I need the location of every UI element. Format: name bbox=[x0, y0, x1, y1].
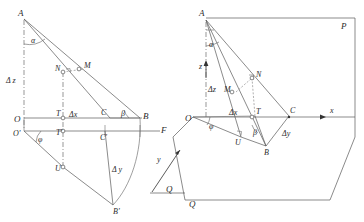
right-plane-Q-edge-4 bbox=[330, 137, 355, 200]
right-label-N: N bbox=[255, 70, 262, 79]
right-label-P: P bbox=[340, 21, 347, 31]
left-label-Bp: B' bbox=[113, 207, 120, 216]
right-label-beta: β bbox=[252, 128, 257, 137]
left-label-Cp: C' bbox=[100, 133, 107, 142]
left-label-B: B bbox=[143, 111, 149, 121]
right-label-x-axis: x bbox=[329, 106, 334, 115]
right-label-delta-z: Δz bbox=[207, 85, 217, 94]
right-label-B: B bbox=[264, 148, 269, 157]
left-node-T bbox=[61, 116, 65, 120]
right-label-M: M bbox=[223, 85, 232, 94]
diagram-canvas: A N M O T C B O' T' C' F U B' α β φ Δ z … bbox=[0, 0, 364, 222]
right-label-phi: φ bbox=[209, 122, 214, 131]
right-node-T bbox=[250, 115, 254, 119]
right-label-A: A bbox=[198, 8, 205, 18]
left-label-delta-z: Δ z bbox=[5, 76, 17, 85]
right-line-O-U bbox=[193, 117, 241, 137]
right-node-N bbox=[250, 76, 254, 80]
right-z-axis-arrowhead bbox=[204, 60, 209, 66]
left-line-A-C bbox=[24, 19, 110, 118]
right-line-A-U bbox=[206, 20, 241, 137]
right-label-C: C bbox=[290, 106, 296, 115]
right-label-Q: Q bbox=[189, 199, 196, 209]
left-label-N: N bbox=[54, 64, 61, 73]
left-label-phi: φ bbox=[38, 135, 43, 144]
geometry-figure: A N M O T C B O' T' C' F U B' α β φ Δ z … bbox=[0, 0, 364, 222]
left-node-N bbox=[61, 70, 65, 74]
left-label-beta: β bbox=[120, 109, 125, 118]
left-node-U bbox=[61, 165, 65, 169]
right-plane-Q-edge-2 bbox=[173, 137, 185, 200]
left-node-M bbox=[77, 67, 81, 71]
left-label-C: C bbox=[101, 108, 107, 117]
left-label-O: O bbox=[14, 114, 21, 124]
right-label-delta-y: Δy bbox=[281, 129, 291, 138]
left-line-A-B bbox=[24, 19, 140, 118]
right-line-A-C bbox=[206, 20, 289, 116]
left-label-Tp: T' bbox=[56, 128, 62, 137]
right-label-T: T bbox=[256, 107, 261, 116]
left-label-delta-x: Δx bbox=[68, 110, 78, 119]
right-x-axis-arrowhead bbox=[320, 115, 326, 120]
left-label-F: F bbox=[160, 125, 167, 135]
left-label-Q-plane: Q bbox=[166, 184, 173, 194]
right-label-O: O bbox=[185, 113, 192, 123]
right-label-z-axis: z bbox=[198, 62, 203, 71]
right-label-delta-x: Δx bbox=[228, 108, 238, 117]
left-panel-group: A N M O T C B O' T' C' F U B' α β φ Δ z … bbox=[5, 8, 185, 216]
right-panel-group: A P N M O T C U B Q α β φ Δz Δx Δy x z bbox=[173, 8, 355, 209]
left-label-T: T bbox=[56, 109, 61, 118]
right-line-A-B bbox=[206, 20, 266, 146]
left-label-M: M bbox=[83, 61, 92, 70]
left-label-A: A bbox=[17, 8, 24, 18]
left-label-y-axis: y bbox=[156, 155, 161, 164]
right-label-U: U bbox=[235, 138, 242, 147]
left-label-Op: O' bbox=[13, 129, 21, 138]
left-line-U-Bp bbox=[63, 167, 113, 205]
right-line-M-N bbox=[236, 78, 252, 92]
left-label-delta-y: Δ y bbox=[111, 165, 123, 174]
right-node-C bbox=[288, 116, 290, 118]
right-drop-N-T bbox=[252, 78, 255, 116]
